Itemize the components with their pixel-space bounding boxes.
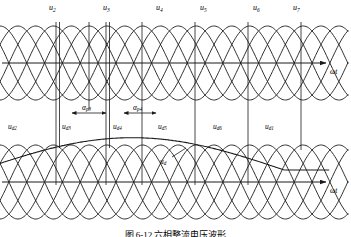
waveform-canvas bbox=[0, 0, 351, 237]
bottom-axis-label: ωt bbox=[330, 187, 337, 195]
phase-voltage-label: u5 bbox=[200, 4, 207, 13]
top-axis-label: ωt bbox=[330, 68, 337, 76]
phase-voltage-label: u7 bbox=[293, 4, 300, 13]
phase-voltage-label: u2 bbox=[49, 4, 56, 13]
phase-voltage-label: u4 bbox=[156, 4, 163, 13]
output-voltage-label: ud bbox=[160, 158, 166, 167]
six-phase-rectifier-waveform-figure: u2u3u4u5u6u7 αp3αp4 ud2ud3ud4ud5ud6ud1 u… bbox=[0, 0, 351, 237]
segment-voltage-label: ud3 bbox=[62, 123, 71, 132]
output-label-leader-line bbox=[172, 148, 186, 157]
segment-voltage-label: ud4 bbox=[113, 123, 122, 132]
top-commutation-lines bbox=[56, 22, 301, 110]
segment-voltage-label: ud2 bbox=[8, 123, 17, 132]
firing-angle-label: αp4 bbox=[133, 104, 142, 113]
segment-voltage-label: ud5 bbox=[158, 123, 167, 132]
figure-caption: 图 6-12 六相整流电压波形 bbox=[0, 228, 351, 237]
phase-voltage-label: u6 bbox=[253, 4, 260, 13]
segment-voltage-label: ud6 bbox=[213, 123, 222, 132]
firing-angle-label: αp3 bbox=[82, 104, 91, 113]
phase-voltage-label: u3 bbox=[103, 4, 110, 13]
segment-voltage-label: ud1 bbox=[265, 123, 274, 132]
